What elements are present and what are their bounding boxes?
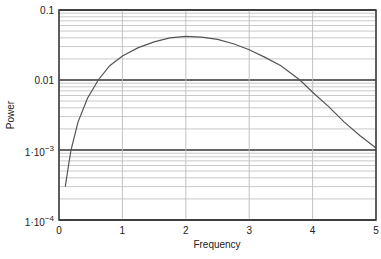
y-tick-1e-3: 1·10−3 [25,144,55,158]
y-tick-0.1: 0.1 [40,5,54,16]
x-axis-label: Frequency [193,239,240,250]
x-tick-4: 4 [310,225,316,236]
y-tick-1e-4: 1·10−4 [25,214,55,228]
grid-lines [59,10,376,220]
x-tick-5: 5 [373,225,379,236]
y-tick-0.01: 0.01 [35,75,55,86]
y-axis-label: Power [5,100,16,129]
x-tick-1: 1 [120,225,126,236]
x-tick-2: 2 [183,225,189,236]
x-tick-0: 0 [56,225,62,236]
plot-frame [59,10,376,220]
x-tick-3: 3 [246,225,252,236]
x-tick-labels: 012345 [56,225,379,236]
power-spectrum-chart: 0.1 0.01 1·10−3 1·10−4 012345 Frequency … [0,0,381,259]
